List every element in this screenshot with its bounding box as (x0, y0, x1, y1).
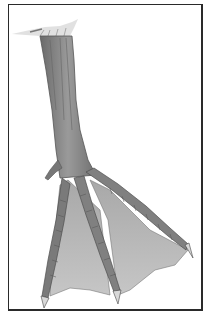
duck-foot-illustration (0, 0, 209, 319)
hind-toe (45, 160, 62, 180)
feather-tuft (12, 19, 78, 36)
caption-text: ... .. . .. . . (12, 313, 83, 319)
claw-inner (41, 296, 49, 308)
shank (40, 36, 96, 178)
claw-middle (113, 290, 121, 304)
